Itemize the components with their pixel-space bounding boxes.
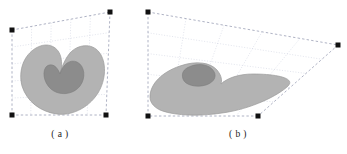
corner-handle-top-left[interactable] <box>10 28 15 33</box>
blob-inner-b <box>182 65 215 87</box>
corner-handle-bottom-left[interactable] <box>10 113 15 118</box>
panel-a-caption: ( a ) <box>0 129 120 139</box>
panel-b-caption: ( b ) <box>178 129 298 139</box>
corner-handle-bottom-right[interactable] <box>104 113 109 118</box>
corner-handle-top-right[interactable] <box>336 43 341 48</box>
corner-handle-bottom-left[interactable] <box>146 114 151 119</box>
corner-handle-bottom-right[interactable] <box>256 114 261 119</box>
corner-handle-top-right[interactable] <box>108 10 113 15</box>
corner-handle-top-left[interactable] <box>146 10 151 15</box>
